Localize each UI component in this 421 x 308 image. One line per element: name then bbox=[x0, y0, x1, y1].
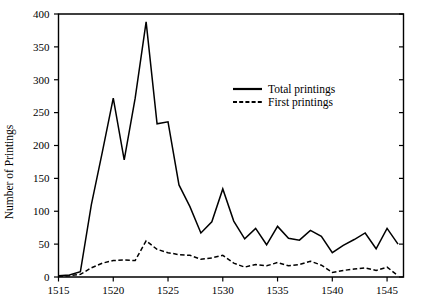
chart-container: 050100150200250300350400 151515201525153… bbox=[0, 0, 421, 308]
x-tick-label: 1535 bbox=[267, 284, 290, 296]
x-tick-label: 1520 bbox=[102, 284, 125, 296]
y-tick-label: 150 bbox=[33, 172, 50, 184]
y-tick-label: 0 bbox=[44, 271, 50, 283]
x-tick-label: 1525 bbox=[157, 284, 180, 296]
data-series bbox=[59, 22, 399, 276]
y-axis-title: Number of Printings bbox=[3, 124, 16, 219]
line-chart: 050100150200250300350400 151515201525153… bbox=[0, 0, 421, 308]
chart-legend: Total printings First printings bbox=[233, 83, 336, 109]
legend-label-first-printings: First printings bbox=[268, 96, 333, 109]
y-tick-label: 350 bbox=[33, 41, 50, 53]
y-tick-label: 250 bbox=[33, 106, 50, 118]
series-line-first-printings bbox=[59, 241, 399, 277]
y-axis-tick-labels: 050100150200250300350400 bbox=[33, 8, 50, 283]
y-tick-label: 300 bbox=[33, 74, 50, 86]
x-tick-label: 1515 bbox=[48, 284, 71, 296]
x-tick-label: 1530 bbox=[212, 284, 235, 296]
series-line-total-printings bbox=[59, 22, 399, 276]
y-tick-label: 50 bbox=[39, 238, 51, 250]
y-tick-label: 200 bbox=[33, 139, 50, 151]
x-axis-tick-labels: 1515152015251530153515401545 bbox=[48, 284, 399, 296]
plot-frame bbox=[59, 14, 404, 277]
y-axis-ticks bbox=[54, 14, 404, 277]
x-tick-label: 1540 bbox=[321, 284, 344, 296]
y-tick-label: 100 bbox=[33, 205, 50, 217]
axes: 050100150200250300350400 151515201525153… bbox=[33, 8, 404, 296]
legend-label-total-printings: Total printings bbox=[268, 83, 336, 96]
x-tick-label: 1545 bbox=[376, 284, 399, 296]
y-tick-label: 400 bbox=[33, 8, 50, 20]
